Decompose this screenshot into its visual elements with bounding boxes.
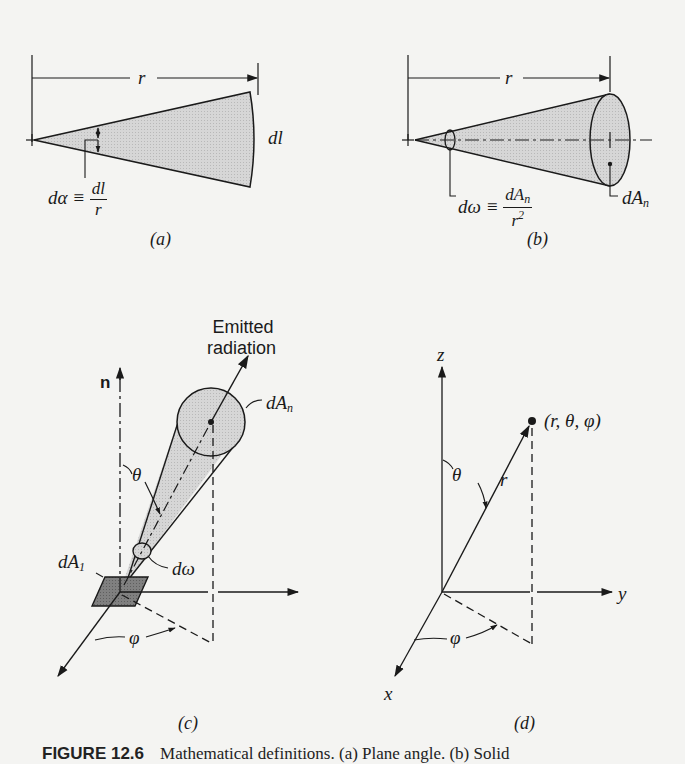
panel-b-area-label: dAn — [622, 188, 649, 209]
r-vector — [442, 426, 529, 592]
domega-leader — [450, 149, 456, 196]
panel-d-caption: (d) — [514, 714, 535, 732]
panel-c-domega-label: dω — [172, 559, 195, 578]
emitted-radiation-label: Emitted radiation — [210, 318, 276, 357]
panel-b-radius-label: r — [505, 68, 512, 87]
panel-c-caption: (c) — [178, 714, 198, 732]
panel-c-phi-label: φ — [129, 628, 140, 647]
panel-a-caption: (a) — [150, 230, 171, 248]
z-axis-label: z — [437, 345, 444, 364]
figure-caption: FIGURE 12.6Mathematical definitions. (a)… — [42, 744, 509, 764]
point-marker — [528, 417, 536, 425]
panel-d-r-label: r — [500, 470, 507, 489]
figure-caption-text: Mathematical definitions. (a) Plane angl… — [160, 744, 509, 763]
panel-c-dAn-label: dAn — [266, 393, 293, 414]
normal-label: n — [100, 374, 110, 391]
panel-c-emission — [58, 356, 298, 676]
plane-angle-wedge — [34, 92, 254, 187]
point-coordinates-label: (r, θ, φ) — [544, 411, 601, 430]
panel-d-theta-label: θ — [452, 465, 461, 484]
figure-number: FIGURE 12.6 — [42, 744, 144, 763]
dalpha-symbol: dα ≡ — [48, 187, 85, 208]
domega-fraction: dAn r2 — [503, 186, 532, 230]
panel-b-caption: (b) — [527, 230, 548, 248]
dalpha-fraction: dl r — [90, 180, 107, 220]
x-axis-arrow — [395, 592, 442, 676]
domega-symbol: dω ≡ — [458, 196, 499, 217]
dalpha-numerator: dl — [90, 180, 107, 200]
x-axis-arrow — [58, 592, 120, 676]
y-axis-label: y — [618, 584, 626, 603]
domega-numerator: dAn — [503, 186, 532, 208]
dalpha-denominator: r — [95, 200, 102, 220]
panel-a-angle-definition: dα ≡ dl r — [48, 180, 107, 220]
panel-c-theta-label: θ — [132, 465, 141, 484]
panel-d-phi-label: φ — [450, 628, 461, 647]
domega-denominator: r2 — [511, 208, 524, 231]
panel-a-radius-label: r — [138, 68, 145, 87]
panel-a-arc-length-label: dl — [268, 128, 283, 147]
panel-c-dA1-label: dA1 — [58, 552, 85, 573]
panel-b-solid-angle — [402, 55, 652, 196]
x-axis-label: x — [384, 684, 392, 703]
panel-b-solid-angle-definition: dω ≡ dAn r2 — [458, 186, 532, 230]
